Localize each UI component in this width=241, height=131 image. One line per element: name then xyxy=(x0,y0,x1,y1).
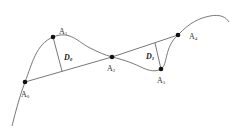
point-a1 xyxy=(51,35,56,40)
point-a3 xyxy=(159,67,164,72)
label-a2: A2 xyxy=(107,64,116,73)
point-a2 xyxy=(110,55,115,60)
curve xyxy=(12,15,229,126)
label-a0: A0 xyxy=(21,90,30,99)
chord-a2-a4 xyxy=(112,35,178,57)
distance-d0-line xyxy=(53,37,62,71)
label-a4: A4 xyxy=(189,32,198,41)
distance-d1-line xyxy=(155,43,161,69)
label-a1: A1 xyxy=(59,27,68,36)
point-a4 xyxy=(176,33,181,38)
curve-simplification-diagram: A0 A1 A2 A3 A4 D0 D1 xyxy=(0,0,241,131)
point-a0 xyxy=(23,80,28,85)
label-d0: D0 xyxy=(63,53,73,62)
label-a3: A3 xyxy=(157,76,166,85)
label-d1: D1 xyxy=(145,52,154,61)
